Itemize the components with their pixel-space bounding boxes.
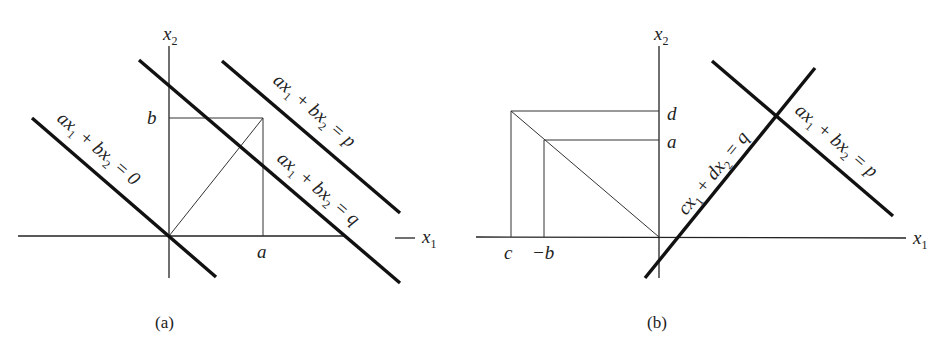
label-line-0: ax1 + bx2 = 0 [51,107,145,193]
label-line-p: ax1 + bx2 = p [789,99,883,184]
x1-axis-label: x1 [912,227,927,252]
caption-a: (a) [155,313,174,332]
x2-axis-label: x2 [162,23,177,48]
tick-label-a: a [667,131,677,152]
line-ax1-bx2-eq-0 [32,118,216,277]
diagonal-vector [169,118,263,236]
panel-a: x1 x2 a b ax1 + bx2 = 0 ax1 + bx2 = q ax… [18,23,436,332]
x-axis [476,237,906,238]
tick-label-a: a [257,241,267,262]
figure: x1 x2 a b ax1 + bx2 = 0 ax1 + bx2 = q ax… [0,0,946,347]
tick-label-b: b [147,107,157,128]
x2-axis-label: x2 [653,23,668,48]
tick-label-c: c [504,242,513,263]
label-line-q: ax1 + bx2 = q [271,147,365,233]
line-ax1-bx2-eq-q [139,60,400,283]
diagonal-vector [511,111,659,237]
caption-b: (b) [647,313,667,332]
line-cx1-dx2-eq-q [645,68,815,278]
panel-b: x1 x2 c −b d a cx1 + dx2 = q ax1 + bx2 =… [476,23,927,332]
tick-label-negb: −b [532,242,554,263]
x1-axis-label: x1 [421,226,436,251]
tick-label-d: d [667,103,677,124]
label-line-q: cx1 + dx2 = q [673,126,756,221]
